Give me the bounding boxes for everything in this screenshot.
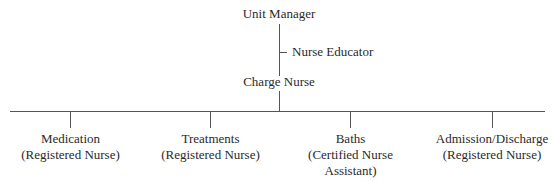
connector-charge-to-bus [279, 91, 280, 111]
treatments-node: Treatments (Registered Nurse) [140, 131, 281, 163]
admission-discharge-node: Admission/Discharge (Registered Nurse) [418, 131, 553, 163]
node-title: Admission/Discharge [418, 131, 553, 147]
node-title: Baths [280, 131, 421, 147]
nurse-educator-node: Nurse Educator [292, 44, 373, 60]
drop-medication [70, 111, 71, 128]
node-title: Medication [0, 131, 141, 147]
node-role-line-2: Assistant) [280, 163, 421, 179]
node-role: (Registered Nurse) [418, 147, 553, 163]
node-title: Treatments [140, 131, 281, 147]
drop-baths [350, 111, 351, 128]
connector-manager-to-charge [279, 24, 280, 76]
node-role: (Registered Nurse) [140, 147, 281, 163]
baths-node: Baths (Certified Nurse Assistant) [280, 131, 421, 179]
node-role: (Registered Nurse) [0, 147, 141, 163]
horizontal-bus-line [10, 111, 545, 112]
drop-admission-discharge [492, 111, 493, 128]
connector-nurse-educator [279, 52, 287, 53]
unit-manager-node: Unit Manager [229, 6, 329, 22]
drop-treatments [210, 111, 211, 128]
charge-nurse-node: Charge Nurse [229, 74, 329, 90]
medication-node: Medication (Registered Nurse) [0, 131, 141, 163]
node-role-line-1: (Certified Nurse [280, 147, 421, 163]
